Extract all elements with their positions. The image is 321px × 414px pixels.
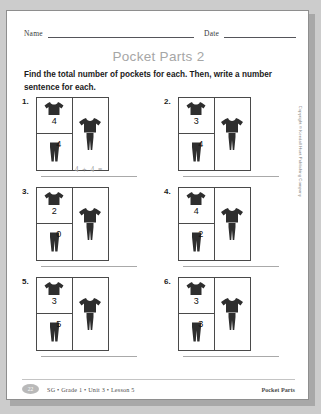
outfit-icon <box>78 117 102 151</box>
problem-grid: 1. 4 4 <box>19 95 304 365</box>
problem-row: 5. 3 5 <box>19 275 304 365</box>
answer-write-line[interactable] <box>41 265 137 267</box>
shirt-cell: 4 <box>37 98 72 134</box>
pocket-table: 4 2 <box>178 187 251 261</box>
shirt-icon <box>186 191 206 206</box>
shirt-cell: 2 <box>37 188 72 224</box>
date-write-line[interactable] <box>224 30 296 38</box>
outfit-icon <box>220 117 244 151</box>
shirt-cell: 3 <box>179 278 214 314</box>
outfit-icon <box>220 207 244 241</box>
pocket-table-left-column: 4 2 <box>179 188 215 260</box>
outfit-cell <box>215 188 251 260</box>
answer-write-line[interactable] <box>183 175 279 177</box>
shirt-pocket-count: 4 <box>52 117 57 126</box>
shirt-pocket-count: 4 <box>194 207 199 216</box>
footer-title: Pocket Parts <box>261 386 295 393</box>
page-title: Pocket Parts 2 <box>7 49 309 64</box>
shirt-pocket-count: 3 <box>194 117 199 126</box>
problem-row: 1. 4 4 <box>19 95 304 185</box>
outfit-icon <box>220 297 244 331</box>
outfit-cell <box>73 278 109 350</box>
shirt-cell: 4 <box>179 188 214 224</box>
problem-number: 1. <box>22 97 29 106</box>
pocket-table: 3 5 <box>36 277 109 351</box>
instructions-text: Find the total number of pockets for eac… <box>24 69 292 94</box>
problem-item: 1. 4 4 <box>19 95 161 185</box>
pocket-table: 3 3 <box>178 277 251 351</box>
pocket-table-left-column: 3 4 <box>179 98 215 170</box>
name-label: Name <box>24 29 43 38</box>
problem-item: 5. 3 5 <box>19 275 161 365</box>
pocket-table: 2 0 <box>36 187 109 261</box>
pocket-table-left-column: 2 0 <box>37 188 73 260</box>
page-number-badge: 22 <box>22 384 39 394</box>
footer-divider <box>22 379 295 380</box>
page-footer: 22 SG • Grade 1 • Unit 3 • Lesson 5 Pock… <box>22 384 295 394</box>
pants-pocket-count: 5 <box>56 320 61 329</box>
problem-row: 3. 2 0 <box>19 185 304 275</box>
answer-write-line[interactable] <box>41 175 137 177</box>
pants-cell: 4 <box>179 134 214 170</box>
shirt-icon <box>44 191 64 206</box>
pants-pocket-count: 3 <box>198 320 203 329</box>
problem-number: 3. <box>22 187 29 196</box>
outfit-icon <box>78 297 102 331</box>
pants-pocket-count: 2 <box>198 230 203 239</box>
shirt-cell: 3 <box>37 278 72 314</box>
problem-number: 2. <box>164 97 171 106</box>
copyright-notice: Copyright © Kendall Hunt Publishing Comp… <box>298 106 303 197</box>
pants-cell: 3 <box>179 314 214 350</box>
shirt-pocket-count: 3 <box>52 297 57 306</box>
date-label: Date <box>204 29 219 38</box>
outfit-cell <box>73 188 109 260</box>
outfit-cell <box>73 98 109 170</box>
name-date-row: Name Date <box>24 29 296 38</box>
problem-number: 5. <box>22 277 29 286</box>
pocket-table-left-column: 3 5 <box>37 278 73 350</box>
answer-write-line[interactable] <box>183 265 279 267</box>
shirt-icon <box>186 281 206 296</box>
problem-item: 6. 3 3 <box>161 275 303 365</box>
pocket-table: 4 4 <box>36 97 109 171</box>
number-sentence: 4 + 4 = <box>41 165 137 174</box>
pants-cell: 5 <box>37 314 72 350</box>
pocket-table: 3 4 <box>178 97 251 171</box>
pants-cell: 0 <box>37 224 72 260</box>
shirt-cell: 3 <box>179 98 214 134</box>
shirt-icon <box>44 281 64 296</box>
outfit-cell <box>215 278 251 350</box>
shirt-icon <box>44 101 64 116</box>
pocket-table-left-column: 4 4 <box>37 98 73 170</box>
footer-breadcrumb: SG • Grade 1 • Unit 3 • Lesson 5 <box>47 386 135 393</box>
pants-pocket-count: 0 <box>56 230 61 239</box>
problem-item: 2. 3 4 <box>161 95 303 185</box>
problem-item: 4. 4 2 <box>161 185 303 275</box>
outfit-icon <box>78 207 102 241</box>
pants-cell: 2 <box>179 224 214 260</box>
outfit-cell <box>215 98 251 170</box>
shirt-pocket-count: 3 <box>194 297 199 306</box>
problem-number: 6. <box>164 277 171 286</box>
problem-number: 4. <box>164 187 171 196</box>
answer-write-line[interactable] <box>41 355 137 357</box>
pants-pocket-count: 4 <box>198 140 203 149</box>
shirt-icon <box>186 101 206 116</box>
shirt-pocket-count: 2 <box>52 207 57 216</box>
pocket-table-left-column: 3 3 <box>179 278 215 350</box>
pants-pocket-count: 4 <box>56 140 61 149</box>
worksheet-page: Name Date Pocket Parts 2 Find the total … <box>6 10 309 400</box>
problem-item: 3. 2 0 <box>19 185 161 275</box>
name-write-line[interactable] <box>48 30 194 38</box>
answer-write-line[interactable] <box>183 355 279 357</box>
